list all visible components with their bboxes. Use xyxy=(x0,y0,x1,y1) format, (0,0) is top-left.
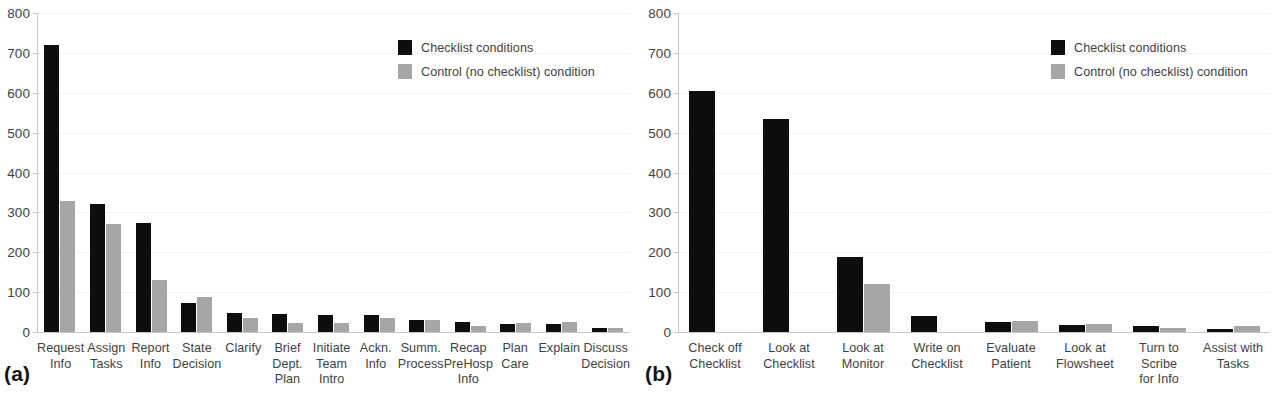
x-axis-category-label: Look at Flowsheet xyxy=(1048,341,1122,388)
y-axis-tick-label: 500 xyxy=(648,125,671,140)
bar xyxy=(562,322,577,332)
bar xyxy=(380,318,395,332)
y-axis-tick-label: 400 xyxy=(7,165,30,180)
y-axis-tick-label: 100 xyxy=(7,285,30,300)
bar xyxy=(334,323,349,332)
y-axis-tick-label: 200 xyxy=(648,245,671,260)
bar-group xyxy=(37,13,83,332)
bar xyxy=(181,303,196,333)
legend-swatch-icon xyxy=(398,64,412,79)
x-axis-category-label: Summ. Process xyxy=(398,341,444,388)
bar xyxy=(409,320,424,332)
x-axis-category-label: Assign Tasks xyxy=(84,341,128,388)
y-axis-tick-label: 800 xyxy=(7,6,30,21)
bar-group xyxy=(826,13,900,332)
x-axis-category-label: Look at Checklist xyxy=(752,341,826,388)
x-axis-category-label: Recap PreHosp Info xyxy=(444,341,493,388)
bar xyxy=(455,322,470,332)
bar xyxy=(1012,321,1038,332)
legend-label: Control (no checklist) condition xyxy=(421,65,595,79)
bar xyxy=(592,328,607,332)
bar xyxy=(985,322,1011,332)
x-axis-category-label: Turn to Scribe for Info xyxy=(1122,341,1196,388)
x-axis-category-label: Look at Monitor xyxy=(826,341,900,388)
bar-group xyxy=(83,13,129,332)
bar xyxy=(608,328,623,332)
legend-swatch-icon xyxy=(398,40,412,55)
bar-group xyxy=(678,13,752,332)
y-axis-tick-label: 200 xyxy=(7,245,30,260)
legend-item: Checklist conditions xyxy=(398,40,595,55)
x-axis-line xyxy=(37,332,630,333)
y-axis-tick-label: 500 xyxy=(7,125,30,140)
bar-group xyxy=(311,13,357,332)
x-axis-category-label: Explain xyxy=(537,341,581,388)
bar xyxy=(864,284,890,332)
legend-item: Checklist conditions xyxy=(1051,40,1248,55)
y-axis-tick-label: 700 xyxy=(648,45,671,60)
bar xyxy=(1059,325,1085,332)
x-axis-category-label: Request Info xyxy=(37,341,84,388)
y-axis-tick-label: 100 xyxy=(648,285,671,300)
panel-b: 0100200300400500600700800 Check off Chec… xyxy=(638,0,1275,393)
y-axis-tick-label: 0 xyxy=(22,325,30,340)
legend-b: Checklist conditionsControl (no checklis… xyxy=(1051,40,1248,88)
x-axis-category-label: State Decision xyxy=(173,341,222,388)
panel-label-a: (a) xyxy=(4,362,30,386)
legend-label: Control (no checklist) condition xyxy=(1074,65,1248,79)
bar xyxy=(152,280,167,332)
figure-two-panel-bar-charts: 0100200300400500600700800 Request InfoAs… xyxy=(0,0,1275,393)
x-axis-category-label: Write on Checklist xyxy=(900,341,974,388)
legend-label: Checklist conditions xyxy=(1074,41,1186,55)
bar xyxy=(471,326,486,332)
bar-group xyxy=(265,13,311,332)
x-axis-category-label: Initiate Team Intro xyxy=(310,341,354,388)
bar xyxy=(90,204,105,332)
x-axis-category-label: Plan Care xyxy=(493,341,537,388)
bar xyxy=(227,313,242,332)
x-axis-labels-b: Check off ChecklistLook at ChecklistLook… xyxy=(678,341,1270,388)
bar-group xyxy=(174,13,220,332)
bar xyxy=(318,315,333,332)
x-axis-category-label: Report Info xyxy=(128,341,172,388)
y-axis-tick-label: 800 xyxy=(648,6,671,21)
panel-a: 0100200300400500600700800 Request InfoAs… xyxy=(0,0,638,393)
x-axis-category-label: Check off Checklist xyxy=(678,341,752,388)
legend-swatch-icon xyxy=(1051,40,1065,55)
x-axis-category-label: Clarify xyxy=(221,341,265,388)
bar xyxy=(911,316,937,332)
y-axis-tick-label: 600 xyxy=(7,85,30,100)
x-axis-category-label: Assist with Tasks xyxy=(1196,341,1270,388)
legend-item: Control (no checklist) condition xyxy=(398,64,595,79)
bar xyxy=(60,201,75,332)
bar xyxy=(1133,326,1159,332)
bar-group xyxy=(752,13,826,332)
bar xyxy=(44,45,59,332)
bar xyxy=(837,257,863,332)
x-axis-labels-a: Request InfoAssign TasksReport InfoState… xyxy=(37,341,630,388)
legend-label: Checklist conditions xyxy=(421,41,533,55)
bar xyxy=(1234,326,1260,332)
y-axis-tick-label: 300 xyxy=(648,205,671,220)
bar xyxy=(546,324,561,332)
y-axis-tick-label: 0 xyxy=(663,325,671,340)
y-axis-tick-label: 600 xyxy=(648,85,671,100)
bar xyxy=(1160,328,1186,332)
bar xyxy=(763,119,789,332)
y-axis-tick xyxy=(674,332,679,333)
y-axis-tick-label: 300 xyxy=(7,205,30,220)
legend-a: Checklist conditionsControl (no checklis… xyxy=(398,40,595,88)
bar-group xyxy=(356,13,402,332)
bar xyxy=(272,314,287,332)
y-axis-tick-label: 700 xyxy=(7,45,30,60)
bar xyxy=(500,324,515,332)
bar xyxy=(197,297,212,332)
bar xyxy=(288,323,303,332)
bar xyxy=(364,315,379,332)
x-axis-category-label: Evaluate Patient xyxy=(974,341,1048,388)
bar xyxy=(106,224,121,332)
x-axis-category-label: Discuss Decision xyxy=(581,341,630,388)
x-axis-category-label: Brief Dept. Plan xyxy=(265,341,309,388)
bar xyxy=(1207,329,1233,332)
bar-group xyxy=(128,13,174,332)
